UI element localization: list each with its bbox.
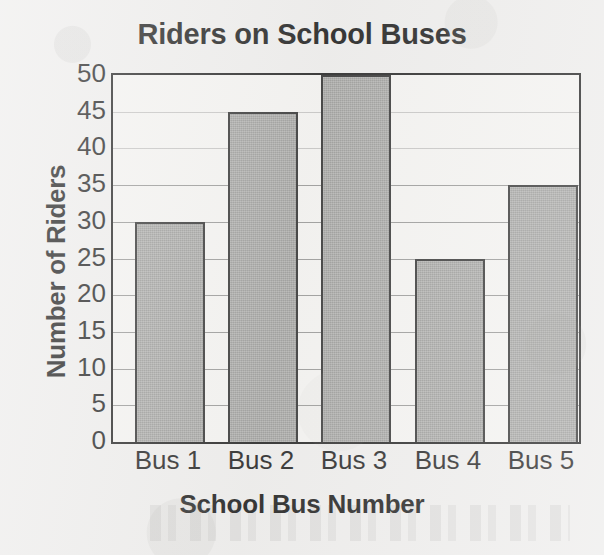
bars-layer [113,75,579,442]
x-tick-label: Bus 5 [491,446,591,475]
y-tick-label: 40 [52,133,106,159]
bar [415,259,485,443]
y-tick-label: 25 [52,244,106,270]
x-axis-title: School Bus Number [0,489,604,520]
y-tick-label: 50 [52,60,106,86]
y-tick-label: 35 [52,170,106,196]
x-tick-label: Bus 3 [304,446,404,475]
bar [508,185,578,442]
bar [228,112,298,442]
bar [321,75,391,442]
chart-title: Riders on School Buses [0,18,604,51]
y-tick-label: 45 [52,97,106,123]
x-tick-label: Bus 2 [211,446,311,475]
y-axis-tick-labels: 50454035302520151050 [52,73,106,440]
y-tick-label: 10 [52,354,106,380]
x-tick-label: Bus 4 [398,446,498,475]
plot-area [111,73,581,444]
y-tick-label: 5 [52,390,106,416]
y-tick-label: 20 [52,280,106,306]
bar-chart-figure: Riders on School Buses Number of Riders … [0,0,604,555]
x-tick-label: Bus 1 [118,446,218,475]
x-axis-tick-labels: Bus 1Bus 2Bus 3Bus 4Bus 5 [111,446,577,486]
bar [135,222,205,442]
y-tick-label: 0 [52,427,106,453]
y-tick-label: 30 [52,207,106,233]
y-tick-label: 15 [52,317,106,343]
